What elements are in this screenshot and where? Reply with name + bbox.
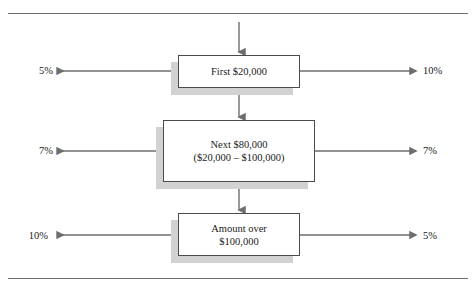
node-over-label-line2: $100,000 [211, 235, 267, 248]
node-over-label-line1: Amount over [211, 222, 267, 235]
node-over-bracket[interactable]: Amount over $100,000 [178, 213, 300, 256]
rate-label-left-next: 7% [13, 145, 53, 156]
node-first-bracket[interactable]: First $20,000 [178, 55, 300, 88]
node-next-bracket[interactable]: Next $80,000 ($20,000 – $100,000) [163, 120, 315, 182]
rate-label-right-first: 10% [423, 65, 463, 76]
rate-label-right-next: 7% [423, 145, 463, 156]
node-next-label-line1: Next $80,000 [194, 138, 285, 151]
rate-label-right-over: 5% [423, 230, 463, 241]
rate-label-left-first: 5% [13, 65, 53, 76]
flow-diagram-figure: First $20,000 Next $80,000 ($20,000 – $1… [0, 0, 476, 291]
node-next-label-wrap: Next $80,000 ($20,000 – $100,000) [194, 138, 285, 164]
node-over-label-wrap: Amount over $100,000 [211, 222, 267, 248]
node-next-label-line2: ($20,000 – $100,000) [194, 151, 285, 164]
rate-label-left-over: 10% [8, 230, 48, 241]
node-first-label-line1: First $20,000 [211, 65, 267, 78]
